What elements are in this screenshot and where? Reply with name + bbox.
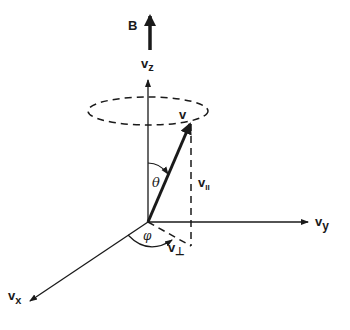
parallel-component-label: vII xyxy=(198,175,210,192)
velocity-diagram: B vz vy vx v vII v⊥ θ φ xyxy=(0,0,350,330)
phi-label: φ xyxy=(143,229,152,243)
vx-axis xyxy=(30,222,148,301)
vy-axis-label: vy xyxy=(315,214,329,233)
theta-arc xyxy=(148,163,168,174)
velocity-vector-label: v xyxy=(179,107,187,122)
theta-label: θ xyxy=(152,175,160,190)
perpendicular-component-label: v⊥ xyxy=(168,240,185,257)
velocity-vector xyxy=(148,124,190,222)
b-field-label: B xyxy=(128,18,137,33)
vx-axis-label: vx xyxy=(8,288,22,306)
vz-axis-label: vz xyxy=(141,56,154,73)
